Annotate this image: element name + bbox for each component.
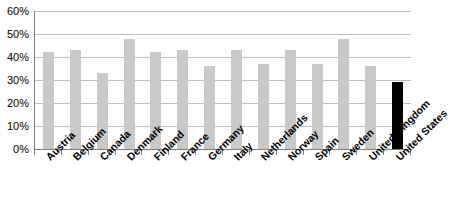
y-axis-tick-label: 10% [7, 121, 29, 132]
bar-slot [62, 11, 89, 149]
y-axis-tick-label: 40% [7, 52, 29, 63]
bar-slot [35, 11, 62, 149]
y-axis-tick-label: 50% [7, 29, 29, 40]
y-axis-tick-label: 60% [7, 6, 29, 17]
bar-slot [116, 11, 143, 149]
bar-slot [196, 11, 223, 149]
bar-slot [250, 11, 277, 149]
y-axis-tick-label: 0% [13, 144, 29, 155]
bar-slot [357, 11, 384, 149]
bar-sweden[interactable] [338, 39, 349, 149]
bar-slot [330, 11, 357, 149]
bar-austria[interactable] [43, 52, 54, 149]
x-axis: AustriaBelgiumCanadaDenmarkFinlandFrance… [34, 155, 411, 219]
y-axis: 0%10%20%30%40%50%60% [0, 0, 33, 155]
bars-group [35, 11, 411, 149]
bar-netherlands[interactable] [258, 64, 269, 149]
y-axis-tick-label: 30% [7, 75, 29, 86]
bar-slot [304, 11, 331, 149]
bar-slot [169, 11, 196, 149]
plot-area [34, 11, 411, 150]
y-axis-tick-label: 20% [7, 98, 29, 109]
